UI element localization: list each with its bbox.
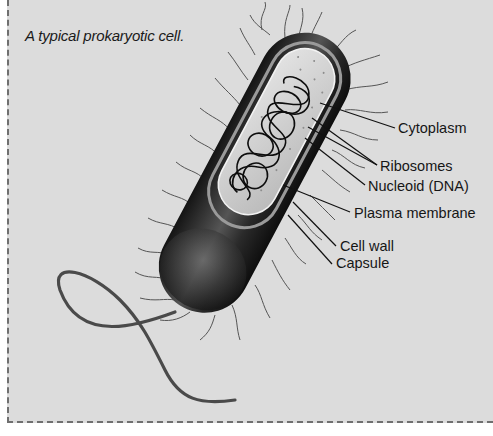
label-cytoplasm: Cytoplasm [398,120,467,136]
label-cell-wall: Cell wall [340,238,394,254]
label-nucleoid: Nucleoid (DNA) [368,178,469,194]
label-ribosomes: Ribosomes [380,158,453,174]
label-capsule: Capsule [336,255,389,271]
label-plasma-membrane: Plasma membrane [354,205,476,221]
